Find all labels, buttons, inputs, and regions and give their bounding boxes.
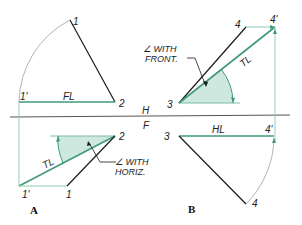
descriptive-geometry-diagram: H F 1 2 1' FL 2 1 1' TL ∠ WITH — [0, 0, 302, 225]
fl-label: FL — [63, 91, 75, 102]
revolution-arc — [19, 20, 70, 102]
panel-b-label: B — [188, 203, 196, 215]
point-4prime-label: 4' — [265, 124, 274, 135]
point-2-label: 2 — [118, 131, 125, 142]
angle-leader — [187, 58, 205, 84]
hl-label: HL — [212, 124, 225, 135]
point-4-label: 4 — [235, 19, 241, 30]
angle-label-line1: ∠ WITH — [115, 157, 149, 167]
point-1prime-label: 1' — [22, 189, 31, 200]
point-1prime-label: 1' — [20, 91, 29, 102]
line-1-2 — [70, 20, 115, 102]
point-3-label: 3 — [164, 131, 170, 142]
angle-label-line2: HORIZ. — [115, 167, 146, 177]
panel-b-top-view: 3 4 4' TL ∠ WITH FRONT. — [143, 14, 279, 142]
angle-label-line1: ∠ WITH — [143, 44, 177, 54]
point-1-label: 1 — [73, 16, 79, 27]
fold-label-f: F — [143, 120, 150, 131]
point-1-label: 1 — [66, 189, 72, 200]
panel-a-label: A — [30, 204, 38, 216]
point-3-label: 3 — [167, 99, 173, 110]
angle-label-line2: FRONT. — [145, 54, 178, 64]
point-4prime-label: 4' — [270, 14, 279, 25]
panel-b-front-view: 3 4' 4 HL B — [164, 124, 276, 215]
arrowhead — [273, 29, 277, 34]
point-4-label: 4 — [252, 198, 258, 209]
revolution-arc — [246, 138, 274, 204]
panel-a-top-view: 1 2 1' FL — [19, 16, 125, 186]
fold-label-h: H — [142, 105, 150, 116]
fold-line — [10, 115, 290, 117]
panel-a-front-view: 2 1 1' TL ∠ WITH HORIZ. A — [19, 131, 149, 216]
point-2-label: 2 — [118, 98, 125, 109]
line-3-4-front — [179, 136, 246, 204]
